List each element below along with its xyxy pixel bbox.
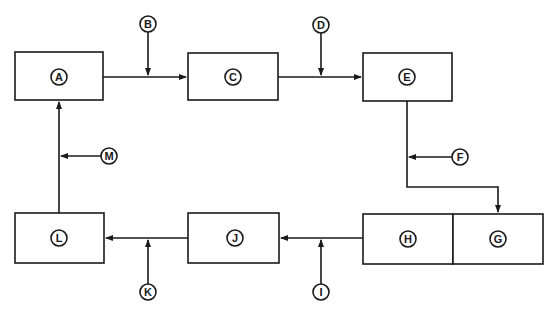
- input-m: M: [101, 148, 117, 164]
- input-k: K: [140, 284, 156, 300]
- input-i: I: [313, 284, 329, 300]
- block-g-label: G: [494, 233, 503, 245]
- input-i-label: I: [319, 286, 322, 298]
- input-m-label: M: [104, 150, 113, 162]
- block-a-label: A: [55, 71, 63, 83]
- block-c: C: [188, 53, 278, 100]
- block-h-label: H: [404, 233, 412, 245]
- input-f: F: [452, 149, 468, 165]
- block-g: G: [453, 214, 543, 264]
- block-l: L: [15, 213, 104, 263]
- block-diagram: A C E H G J L B D F: [0, 0, 557, 318]
- input-d: D: [313, 17, 329, 33]
- block-c-label: C: [229, 71, 237, 83]
- input-b: B: [140, 16, 156, 32]
- input-b-label: B: [144, 18, 152, 30]
- block-a: A: [15, 52, 103, 100]
- input-f-label: F: [457, 151, 464, 163]
- block-l-label: L: [56, 232, 63, 244]
- block-j-label: J: [232, 232, 238, 244]
- input-k-label: K: [144, 286, 152, 298]
- block-e-label: E: [403, 71, 410, 83]
- block-j: J: [188, 213, 279, 263]
- block-h: H: [363, 214, 453, 264]
- block-e: E: [363, 53, 452, 101]
- input-d-label: D: [317, 19, 325, 31]
